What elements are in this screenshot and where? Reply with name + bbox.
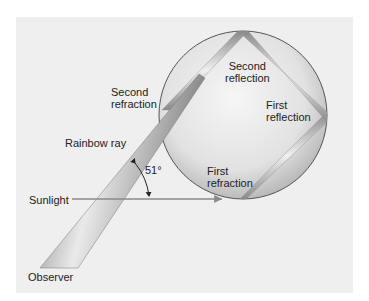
label-angle: 51° <box>145 164 162 176</box>
label-second-reflection: Second reflection <box>225 60 270 84</box>
diagram-canvas <box>0 0 369 301</box>
label-observer: Observer <box>28 271 73 283</box>
label-second-refraction: Second refraction <box>111 86 157 110</box>
label-sunlight: Sunlight <box>29 194 69 206</box>
rainbow-diagram: Second reflection Second refraction Firs… <box>0 0 369 301</box>
label-first-refraction: First refraction <box>207 165 253 189</box>
label-first-reflection: First reflection <box>266 99 311 123</box>
label-rainbow-ray: Rainbow ray <box>65 137 126 149</box>
